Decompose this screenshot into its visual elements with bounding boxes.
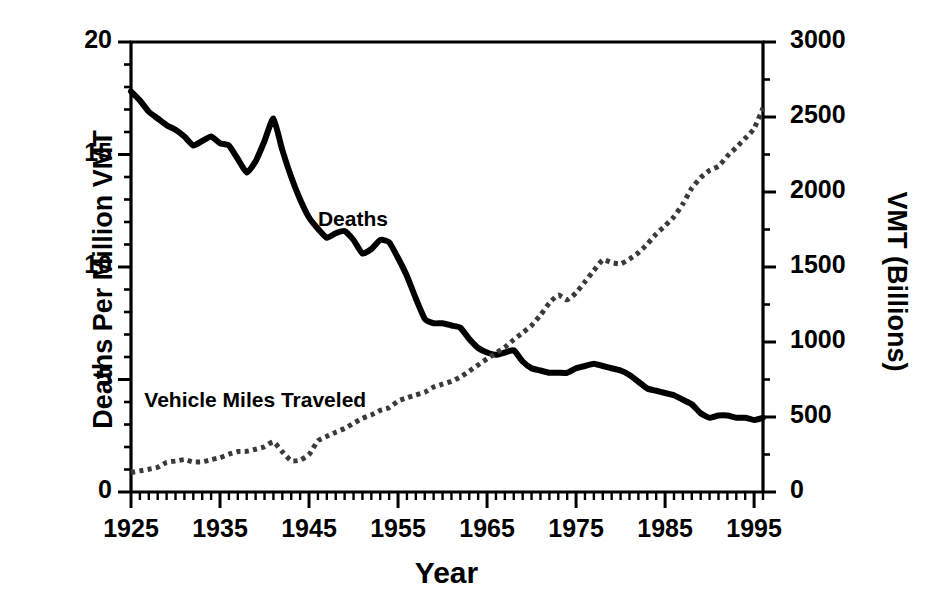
axis-ticks bbox=[118, 42, 776, 508]
x-axis-title: Year bbox=[0, 556, 893, 590]
y-axis-right-tick-label: 1000 bbox=[790, 325, 880, 354]
data-series bbox=[131, 92, 763, 473]
series-label-deaths: Deaths bbox=[318, 207, 388, 231]
y-axis-right-tick-label: 1500 bbox=[790, 250, 880, 279]
y-axis-left-tick-label: 5 bbox=[42, 363, 112, 392]
y-axis-right-tick-label: 2500 bbox=[790, 100, 880, 129]
x-axis-tick-label: 1935 bbox=[175, 514, 265, 543]
y-axis-left-tick-label: 15 bbox=[42, 138, 112, 167]
chart-figure: Deaths Per Million VMT VMT (Billions) Ye… bbox=[0, 0, 931, 607]
deaths-line bbox=[131, 92, 763, 421]
y-axis-left-tick-label: 0 bbox=[42, 475, 112, 504]
x-axis-tick-label: 1965 bbox=[442, 514, 532, 543]
x-axis-tick-label: 1945 bbox=[264, 514, 354, 543]
axes-frame bbox=[131, 42, 763, 492]
y-axis-right-title: VMT (Billions) bbox=[881, 47, 912, 517]
vmt-line bbox=[131, 108, 763, 473]
x-axis-tick-label: 1985 bbox=[620, 514, 710, 543]
x-axis-tick-label: 1995 bbox=[709, 514, 799, 543]
x-axis-tick-label: 1975 bbox=[531, 514, 621, 543]
y-axis-left-tick-label: 10 bbox=[42, 250, 112, 279]
y-axis-right-tick-label: 500 bbox=[790, 400, 880, 429]
y-axis-left-title: Deaths Per Million VMT bbox=[88, 45, 119, 515]
x-axis-tick-label: 1925 bbox=[86, 514, 176, 543]
y-axis-right-tick-label: 2000 bbox=[790, 175, 880, 204]
y-axis-right-tick-label: 0 bbox=[790, 475, 880, 504]
y-axis-left-tick-label: 20 bbox=[42, 25, 112, 54]
x-axis-tick-label: 1955 bbox=[353, 514, 443, 543]
series-label-vehicle-miles-traveled: Vehicle Miles Traveled bbox=[144, 388, 366, 412]
y-axis-right-tick-label: 3000 bbox=[790, 25, 880, 54]
